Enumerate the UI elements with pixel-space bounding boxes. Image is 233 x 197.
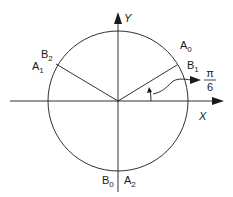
y-axis-label: Y xyxy=(124,12,132,24)
point-label-b0: B0 xyxy=(102,174,114,189)
angle-arc-arrow-icon xyxy=(147,87,152,93)
x-axis-label: X xyxy=(198,110,207,122)
point-label-b2: B2 xyxy=(41,48,53,63)
point-label-a2: A2 xyxy=(124,174,136,189)
angle-numerator: π xyxy=(206,67,214,79)
radius-line-150deg xyxy=(56,64,118,101)
angle-denominator: 6 xyxy=(207,81,213,93)
point-label-a0: A0 xyxy=(180,39,192,54)
circle-diagram: π 6 Y X A0 B1 B2 A1 B0 A2 xyxy=(0,0,233,197)
x-axis-arrow-icon xyxy=(212,97,224,105)
angle-leader-arrow-icon xyxy=(190,76,201,84)
point-label-b1: B1 xyxy=(187,59,199,74)
radius-line-30deg xyxy=(118,65,177,101)
point-label-a1: A1 xyxy=(32,60,44,75)
y-axis-arrow-icon xyxy=(114,12,122,24)
